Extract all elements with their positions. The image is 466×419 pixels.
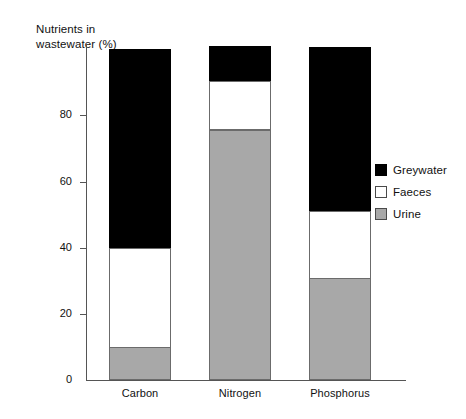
y-tick-label-20: 20 [32,307,72,319]
bar-segment-phosphorus-greywater [309,47,371,211]
bar-segment-carbon-faeces [109,248,171,348]
bar-segment-phosphorus-faeces [309,211,371,279]
legend-label-urine: Urine [393,208,421,220]
legend: Greywater Faeces Urine [375,159,447,225]
legend-label-greywater: Greywater [393,164,447,176]
bar-segment-nitrogen-greywater [209,46,271,81]
y-tick-label-80: 80 [32,108,72,120]
x-axis-line [86,380,406,381]
bar-segment-phosphorus-urine [309,278,371,380]
legend-item-urine: Urine [375,203,447,225]
bar-segment-carbon-greywater [109,49,171,249]
y-tick-label-40: 40 [32,241,72,253]
legend-swatch-faeces-icon [375,186,387,198]
x-axis-label-phosphorus: Phosphorus [280,387,400,399]
legend-swatch-urine-icon [375,208,387,220]
bar-segment-nitrogen-urine [209,130,271,380]
legend-label-faeces: Faeces [393,186,431,198]
y-tick-40 [80,248,87,249]
legend-item-faeces: Faeces [375,181,447,203]
y-tick-80 [80,115,87,116]
legend-item-greywater: Greywater [375,159,447,181]
bar-segment-nitrogen-faeces [209,81,271,130]
legend-swatch-greywater-icon [375,164,387,176]
y-axis-line [86,44,87,381]
y-tick-20 [80,314,87,315]
bar-segment-carbon-urine [109,347,171,380]
y-tick-label-0: 0 [32,373,72,385]
y-tick-label-60: 60 [32,175,72,187]
y-tick-60 [80,182,87,183]
chart-figure: Nutrients in wastewater (%) 80 60 40 20 … [0,0,466,419]
chart-title: Nutrients in wastewater (%) [36,22,186,52]
